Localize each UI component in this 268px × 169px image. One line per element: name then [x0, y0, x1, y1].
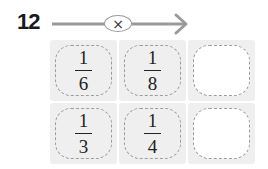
numerator: 1 — [79, 48, 89, 67]
fraction: 14 — [144, 111, 161, 156]
answer-box-r1[interactable] — [188, 40, 255, 101]
denominator: 6 — [79, 74, 89, 93]
fraction-bar — [75, 133, 92, 134]
cell-r1-c1: 16 — [50, 40, 117, 101]
cell-r1-c2: 18 — [119, 40, 186, 101]
numerator: 1 — [148, 111, 158, 130]
fraction: 16 — [75, 48, 92, 93]
answer-input-area[interactable] — [193, 45, 250, 96]
fraction-bar — [144, 133, 161, 134]
cell-r2-c2: 14 — [119, 103, 186, 164]
fraction: 18 — [144, 48, 161, 93]
multiply-operator: × — [104, 15, 132, 32]
numerator: 1 — [148, 48, 158, 67]
answer-box-r2[interactable] — [188, 103, 255, 164]
fraction: 13 — [75, 111, 92, 156]
numerator: 1 — [79, 111, 89, 130]
cell-r2-c1: 13 — [50, 103, 117, 164]
fraction-bar — [75, 70, 92, 71]
denominator: 8 — [148, 74, 158, 93]
fraction-bar — [144, 70, 161, 71]
denominator: 4 — [148, 137, 158, 156]
problem-number: 12 — [17, 9, 39, 35]
answer-input-area[interactable] — [193, 108, 250, 159]
denominator: 3 — [79, 137, 89, 156]
fraction-grid: 16 18 13 14 — [50, 40, 255, 164]
